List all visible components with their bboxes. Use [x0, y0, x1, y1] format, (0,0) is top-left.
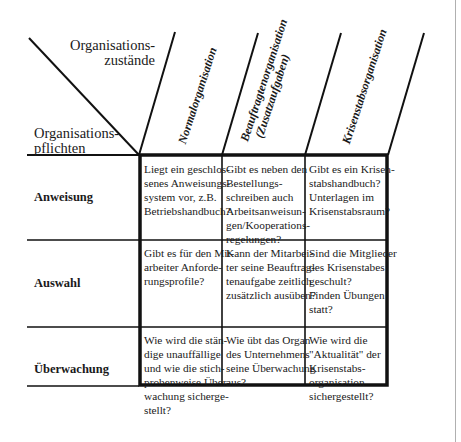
duties-label-line: pflichten	[34, 141, 119, 156]
cell-line: arbeiter Anforde-	[144, 260, 234, 274]
cell-line: des Unternehmens	[226, 347, 315, 361]
cell-line: und wie die stich-	[144, 361, 230, 375]
cell-auswahl-normal: Gibt es für den Mit- arbeiter Anforde- r…	[144, 246, 234, 288]
cell-anweisung-krisenstab: Gibt es ein Krisen- stabshandbuch? Unter…	[309, 162, 395, 218]
cell-line: probenweise Über-	[144, 375, 230, 389]
cell-line: Wie übt das Organ	[226, 333, 315, 347]
cell-line: sichergestellt?	[309, 389, 381, 403]
cell-line: regelungen?	[226, 232, 310, 246]
cell-line: schreiben auch	[226, 190, 310, 204]
cell-line: Gibt es für den Mit-	[144, 246, 234, 260]
cell-line: wachung sicherge-	[144, 389, 230, 403]
cell-line: system vor, z.B.	[144, 190, 231, 204]
cell-line: Kann der Mitarbei-	[226, 246, 316, 260]
cell-line: des Krisenstabes	[309, 260, 397, 274]
cell-auswahl-beauftragte: Kann der Mitarbei- ter seine Beauftrag- …	[226, 246, 316, 302]
cell-line: organisation	[309, 375, 381, 389]
cell-anweisung-beauftragte: Gibt es neben den Bestellungs- schreiben…	[226, 162, 310, 246]
cell-anweisung-normal: Liegt ein geschlos- senes Anweisungs- sy…	[144, 162, 231, 218]
page-edge-line	[455, 0, 456, 442]
cell-line: Wie wird die	[309, 333, 381, 347]
row-label-ueberwachung: Überwachung	[34, 362, 109, 377]
cell-line: seine Überwachung	[226, 361, 315, 375]
cell-line: Arbeitsanweisun-	[226, 204, 310, 218]
cell-line: senes Anweisungs-	[144, 176, 231, 190]
cell-auswahl-krisenstab: Sind die Mitglieder des Krisenstabes ges…	[309, 246, 397, 316]
duties-label: Organisations- pflichten	[34, 126, 119, 156]
cell-line: rungsprofile?	[144, 274, 234, 288]
cell-line: aus?	[226, 375, 315, 389]
cell-line: Unterlagen im	[309, 190, 395, 204]
states-label-line: zustände	[70, 53, 155, 68]
cell-line: Bestellungs-	[226, 176, 310, 190]
cell-line: Gibt es ein Krisen-	[309, 162, 395, 176]
cell-line: Krisenstabsraum?	[309, 204, 395, 218]
cell-line: Krisenstabs-	[309, 361, 381, 375]
header-slant-line	[388, 33, 424, 155]
cell-ueberwachung-beauftragte: Wie übt das Organ des Unternehmens seine…	[226, 333, 315, 389]
row-label-anweisung: Anweisung	[34, 190, 93, 205]
cell-line: stabshandbuch?	[309, 176, 395, 190]
cell-line: gen/Kooperations-	[226, 218, 310, 232]
row-label-auswahl: Auswahl	[34, 276, 81, 291]
cell-line: Betriebshandbuch?	[144, 204, 231, 218]
cell-line: Sind die Mitglieder	[309, 246, 397, 260]
cell-line: tenaufgabe zeitlich	[226, 274, 316, 288]
cell-line: zusätzlich ausüben?	[226, 288, 316, 302]
cell-line: ter seine Beauftrag-	[226, 260, 316, 274]
cell-ueberwachung-krisenstab: Wie wird die "Aktualität" der Krisenstab…	[309, 333, 381, 403]
cell-line: dige unauffällige	[144, 347, 230, 361]
cell-ueberwachung-normal: Wie wird die stän- dige unauffällige und…	[144, 333, 230, 417]
cell-line: Liegt ein geschlos-	[144, 162, 231, 176]
cell-line: statt?	[309, 302, 397, 316]
states-label-line: Organisations-	[70, 38, 155, 53]
header-slant-line	[305, 33, 341, 155]
cell-line: stellt?	[144, 403, 230, 417]
duties-label-line: Organisations-	[34, 126, 119, 141]
cell-line: geschult?	[309, 274, 397, 288]
cell-line: Gibt es neben den	[226, 162, 310, 176]
states-label: Organisations- zustände	[70, 38, 155, 68]
cell-line: Wie wird die stän-	[144, 333, 230, 347]
cell-line: Finden Übungen	[309, 288, 397, 302]
cell-line: "Aktualität" der	[309, 347, 381, 361]
